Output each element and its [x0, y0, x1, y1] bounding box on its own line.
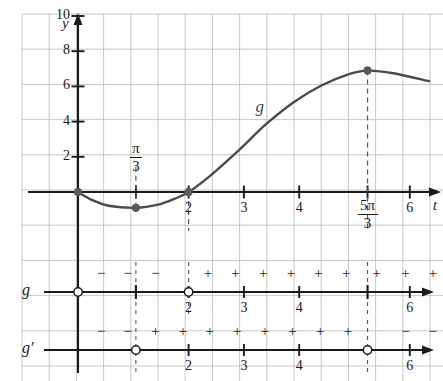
sign-symbol: + [284, 265, 298, 282]
sign-line-tick-label: 6 [401, 358, 419, 374]
y-axis-tick-label: 8 [48, 42, 70, 58]
y-axis-arrow [74, 13, 83, 25]
sign-symbol: + [229, 265, 243, 282]
sign-line-open-circle [74, 288, 82, 296]
sign-symbol: + [286, 323, 300, 340]
graph-panel [28, 13, 441, 373]
sign-symbol: + [398, 265, 412, 282]
sign-symbol: + [148, 323, 162, 340]
sign-line-tick-label: 2 [180, 358, 198, 374]
sign-line-open-circle [363, 346, 371, 354]
sign-symbol: + [341, 323, 355, 340]
sign-symbol: − [148, 265, 162, 282]
sign-symbol: − [121, 265, 135, 282]
fraction-denominator: 3 [121, 159, 151, 174]
t-axis-tick-label: 2 [180, 200, 198, 216]
fraction-denominator: 3 [353, 216, 383, 231]
y-axis-name: y [62, 16, 69, 31]
sign-line-open-circle [132, 346, 140, 354]
sign-symbol: + [258, 323, 272, 340]
sign-symbol: − [94, 265, 108, 282]
sign-line-row-label-g-prime: g′ [22, 339, 34, 357]
sign-line-tick-label: 3 [235, 358, 253, 374]
sign-number-line-arrow [422, 346, 434, 355]
sign-symbol: + [203, 323, 217, 340]
t-axis-fraction-label: 5π3 [353, 198, 383, 231]
marked-point [363, 66, 371, 74]
sign-line-tick-label: 3 [235, 300, 253, 316]
sign-symbol: + [230, 323, 244, 340]
sign-symbol: − [94, 323, 108, 340]
sign-symbol: − [426, 323, 440, 340]
sign-symbol: + [370, 265, 384, 282]
sign-line-tick-label: 2 [180, 300, 198, 316]
sign-number-line-arrow [422, 288, 434, 297]
y-axis-tick-label: 6 [48, 77, 70, 93]
t-axis-fraction-label: π3 [121, 141, 151, 174]
sign-line-open-circle [184, 288, 192, 296]
y-axis-tick-label: 4 [48, 113, 70, 129]
marked-point [74, 188, 82, 196]
sign-symbol: + [256, 265, 270, 282]
fraction-numerator: 5π [353, 198, 383, 213]
t-axis-name: t [433, 199, 437, 213]
sign-symbol: + [339, 265, 353, 282]
sign-symbol: + [201, 265, 215, 282]
sign-line-tick-label: 6 [401, 300, 419, 316]
t-axis-arrow [429, 188, 441, 197]
sign-symbol: + [176, 323, 190, 340]
t-axis-tick-label: 6 [401, 200, 419, 216]
t-axis-tick-label: 4 [290, 200, 308, 216]
fraction-numerator: π [121, 141, 151, 156]
y-axis-tick-label: 2 [48, 148, 70, 164]
sign-line-tick-label: 4 [290, 358, 308, 374]
sign-symbol: + [312, 265, 326, 282]
curve-label-g: g [255, 98, 264, 115]
marked-point [184, 188, 192, 196]
sign-line-row-label-g: g [22, 281, 30, 299]
sign-symbol: + [426, 265, 440, 282]
sign-symbol: − [121, 323, 135, 340]
sign-line-tick-label: 4 [290, 300, 308, 316]
t-axis-tick-label: 3 [235, 200, 253, 216]
sign-symbol: + [313, 323, 327, 340]
sign-symbol: − [398, 323, 412, 340]
marked-point [132, 204, 140, 212]
